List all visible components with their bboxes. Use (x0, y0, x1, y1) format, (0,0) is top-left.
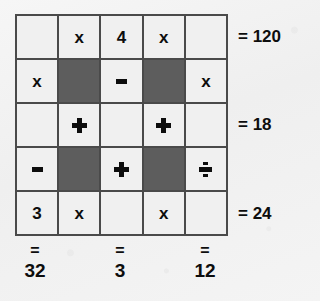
plus-icon (114, 162, 129, 177)
cell-value-r1c3: 4 (117, 29, 126, 46)
grid-cell-r5c5[interactable] (186, 192, 228, 236)
plus-icon (156, 118, 171, 133)
column-result-value-1: 32 (7, 260, 63, 281)
grid-cell-r5c3[interactable] (101, 192, 143, 236)
cell-value-r5c2: x (75, 205, 84, 222)
grid-cell-r2c4-blocked (144, 60, 186, 104)
grid-cell-r2c5[interactable]: x (186, 60, 228, 104)
minus-icon (32, 167, 43, 172)
grid-cell-r4c4-blocked (144, 148, 186, 192)
grid-cell-r5c1[interactable]: 3 (17, 192, 59, 236)
column-equals-sign-5: = (177, 243, 233, 258)
row-result-5: = 24 (238, 192, 304, 236)
grid-cell-r4c3[interactable] (101, 148, 143, 192)
grid-cell-r1c4[interactable]: x (144, 16, 186, 60)
grid-cell-r1c1[interactable] (17, 16, 59, 60)
plus-icon (72, 118, 87, 133)
column-result-3: = 3 (92, 243, 148, 281)
column-result-value-5: 12 (177, 260, 233, 281)
row-result-3: = 18 (238, 103, 304, 147)
cell-value-r2c5: x (201, 73, 210, 90)
grid-cell-r3c2[interactable] (59, 104, 101, 148)
grid-cell-r5c4[interactable]: x (144, 192, 186, 236)
grid-cell-r2c2-blocked (59, 60, 101, 104)
column-equals-sign-1: = (7, 243, 63, 258)
column-result-value-3: 3 (92, 260, 148, 281)
grid-cell-r3c5[interactable] (186, 104, 228, 148)
grid-cell-r1c5[interactable] (186, 16, 228, 60)
divide-icon (199, 162, 212, 177)
grid-cell-r4c5[interactable] (186, 148, 228, 192)
cell-value-r5c1: 3 (32, 205, 41, 222)
puzzle-grid: x 4 x x x 3 x x (15, 14, 228, 236)
cell-value-r5c4: x (159, 205, 168, 222)
grid-cell-r4c2-blocked (59, 148, 101, 192)
grid-cell-r5c2[interactable]: x (59, 192, 101, 236)
cell-value-r1c4: x (159, 29, 168, 46)
grid-cell-r3c4[interactable] (144, 104, 186, 148)
arithmetic-grid-puzzle: x 4 x x x 3 x x = 120 = 18 = 24 = 32 (0, 0, 305, 301)
column-result-1: = 32 (7, 243, 63, 281)
grid-cell-r3c1[interactable] (17, 104, 59, 148)
grid-cell-r1c3[interactable]: 4 (101, 16, 143, 60)
column-result-5: = 12 (177, 243, 233, 281)
cell-value-r2c1: x (32, 73, 41, 90)
grid-cell-r4c1[interactable] (17, 148, 59, 192)
row-result-1: = 120 (238, 15, 304, 59)
grid-cell-r1c2[interactable]: x (59, 16, 101, 60)
grid-cell-r2c3[interactable] (101, 60, 143, 104)
grid-cell-r3c3[interactable] (101, 104, 143, 148)
column-equals-sign-3: = (92, 243, 148, 258)
cell-value-r1c2: x (75, 29, 84, 46)
minus-icon (116, 79, 127, 84)
grid-cell-r2c1[interactable]: x (17, 60, 59, 104)
